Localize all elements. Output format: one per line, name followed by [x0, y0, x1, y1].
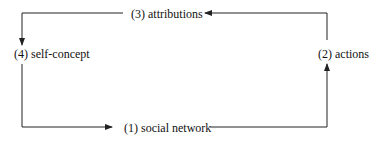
- node-social-network: (1) social network: [124, 121, 211, 135]
- edge-social-network-to-actions: [210, 64, 327, 127]
- edge-actions-to-attributions: [205, 13, 327, 40]
- edge-self-concept-to-social-network: [22, 64, 112, 127]
- edge-attributions-to-self-concept: [22, 13, 123, 45]
- node-self-concept: (4) self-concept: [14, 47, 90, 61]
- cycle-diagram: (3) attributions (4) self-concept (2) ac…: [0, 0, 379, 142]
- node-attributions: (3) attributions: [131, 7, 203, 21]
- node-actions: (2) actions: [318, 47, 369, 61]
